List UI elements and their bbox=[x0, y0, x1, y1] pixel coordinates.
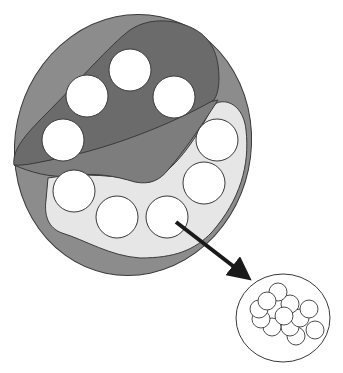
vesicle bbox=[42, 119, 84, 161]
vesicle bbox=[146, 196, 188, 238]
sphere bbox=[275, 307, 293, 325]
vesicle bbox=[109, 49, 151, 91]
vesicle bbox=[153, 76, 195, 118]
magnified-view bbox=[236, 274, 330, 362]
vesicle bbox=[183, 162, 225, 204]
vesicle bbox=[53, 170, 95, 212]
vesicle bbox=[96, 196, 138, 238]
sphere bbox=[306, 321, 324, 339]
vesicle bbox=[196, 119, 238, 161]
sphere bbox=[300, 300, 318, 318]
cell-diagram bbox=[0, 0, 343, 373]
sphere bbox=[258, 292, 276, 310]
vesicle bbox=[66, 75, 108, 117]
